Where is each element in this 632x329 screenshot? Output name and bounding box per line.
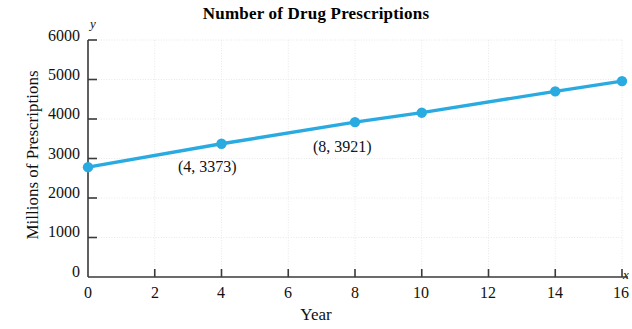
drug-prescriptions-chart: Number of Drug Prescriptions Millions of… bbox=[0, 0, 632, 329]
axis-ticks bbox=[88, 40, 622, 277]
gridlines bbox=[88, 40, 622, 277]
plot-area bbox=[0, 0, 632, 329]
